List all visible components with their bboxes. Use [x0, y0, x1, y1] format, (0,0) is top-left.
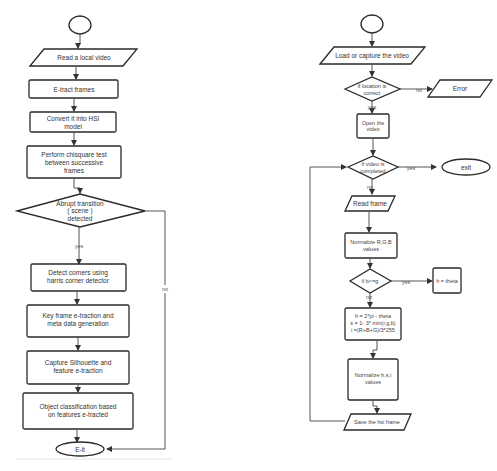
- right-decision-location: if location is correct: [345, 77, 400, 101]
- svg-text:between successive: between successive: [45, 159, 104, 166]
- left-node-exit: E-it: [56, 442, 104, 456]
- svg-text:completed: completed: [360, 168, 385, 174]
- left-node-detect-corners: Detect corners using harris corner detec…: [31, 264, 126, 291]
- svg-text:h = 2*pi - theta: h = 2*pi - theta: [355, 313, 392, 319]
- svg-text:values: values: [363, 246, 379, 252]
- svg-text:harris corner detector: harris corner detector: [47, 277, 110, 284]
- left-flowchart: Read a local video E-tract frames Conver…: [17, 16, 172, 459]
- left-node-object-classification: Object classification based on features …: [23, 393, 133, 429]
- right-node-error: Error: [428, 80, 492, 97]
- svg-text:model: model: [64, 123, 82, 130]
- svg-text:if location is: if location is: [358, 83, 387, 89]
- svg-text:if b<=g: if b<=g: [362, 278, 379, 284]
- right-node-read-frame: Read frame: [345, 196, 395, 211]
- left-node-key-frame-extraction: Key frame e-traction and meta data gener…: [27, 305, 129, 337]
- right-node-normalize-hsi: Normalize h,s,i values: [348, 359, 398, 400]
- svg-text:Save the hsi frame: Save the hsi frame: [354, 419, 400, 425]
- left-node-capture-silhouette: Capture Silhouette and feature e-tractio…: [27, 351, 129, 384]
- svg-text:s = 1- 3* min(r,g,b): s = 1- 3* min(r,g,b): [350, 320, 396, 326]
- right-node-open-video: Open the video: [357, 114, 389, 138]
- svg-text:Normalize h,s,i: Normalize h,s,i: [355, 372, 391, 378]
- right-yes-completed-label: yes: [407, 165, 416, 171]
- svg-text:Open the: Open the: [362, 120, 385, 126]
- svg-text:correct: correct: [364, 90, 381, 96]
- svg-text:if video is: if video is: [362, 161, 385, 167]
- right-no-bcg-label: no: [366, 294, 372, 300]
- svg-text:Convert it into HSI: Convert it into HSI: [47, 115, 100, 122]
- svg-text:Read a local video: Read a local video: [57, 54, 111, 61]
- svg-text:Capture Silhouette and: Capture Silhouette and: [45, 359, 112, 367]
- left-no-label: no: [162, 286, 168, 292]
- svg-text:video: video: [366, 126, 379, 132]
- left-node-chisquare-test: Perform chisquare test between successiv…: [27, 146, 121, 178]
- right-node-save-hsi-frame: Save the hsi frame: [344, 414, 411, 430]
- svg-text:meta data generation: meta data generation: [47, 320, 109, 328]
- svg-text:feature e-traction: feature e-traction: [53, 367, 103, 374]
- left-node-extract-frames: E-tract frames: [29, 80, 118, 98]
- svg-text:h = theta: h = theta: [436, 278, 459, 284]
- svg-text:Object classification based: Object classification based: [40, 403, 117, 411]
- right-node-hsi-formula: h = 2*pi - theta s = 1- 3* min(r,g,b) i …: [345, 308, 401, 340]
- right-no-completed-label: no: [367, 184, 373, 190]
- svg-text:E-tract frames: E-tract frames: [54, 86, 96, 93]
- left-yes-label: yes: [75, 243, 84, 249]
- left-decision-abrupt-transition: Abrupt transition ( scene ) detected: [17, 194, 145, 227]
- right-yes-location-label: yes: [368, 104, 377, 110]
- svg-text:detected: detected: [68, 215, 93, 222]
- svg-text:frames: frames: [64, 167, 85, 174]
- svg-text:on features e-tracted: on features e-tracted: [48, 411, 108, 418]
- left-node-read-video: Read a local video: [30, 49, 137, 66]
- right-node-load-video: Load or capture the video: [320, 47, 425, 64]
- svg-text:Detect corners using: Detect corners using: [48, 269, 108, 277]
- svg-text:Normalize R,G,B: Normalize R,G,B: [350, 239, 392, 245]
- right-node-h-theta: h = theta: [433, 268, 461, 293]
- flowchart-canvas: Read a local video E-tract frames Conver…: [0, 0, 497, 471]
- right-yes-bcg-label: yes: [402, 279, 411, 285]
- right-start-node: [361, 15, 383, 33]
- right-node-normalize-rgb: Normalize R,G,B values: [345, 233, 397, 258]
- right-no-location-label: no: [416, 87, 422, 93]
- svg-text:exit: exit: [461, 164, 471, 171]
- svg-text:i =(R+B+G)/3*255: i =(R+B+G)/3*255: [351, 327, 395, 333]
- svg-text:Error: Error: [453, 85, 468, 92]
- svg-text:E-it: E-it: [75, 446, 85, 453]
- left-node-convert-hsi: Convert it into HSI model: [30, 112, 116, 132]
- right-flowchart: Load or capture the video if location is…: [310, 15, 492, 430]
- right-decision-video-completed: if video is completed: [348, 156, 398, 179]
- svg-text:Key frame e-traction and: Key frame e-traction and: [42, 312, 114, 320]
- svg-text:Perform chisquare test: Perform chisquare test: [41, 151, 107, 159]
- right-decision-b-le-g: if b<=g: [350, 269, 391, 293]
- svg-text:Load or capture the video: Load or capture the video: [335, 52, 409, 60]
- right-node-exit: exit: [442, 159, 490, 175]
- left-start-node: [69, 16, 91, 34]
- svg-text:values: values: [365, 379, 381, 385]
- svg-text:Read frame: Read frame: [353, 200, 387, 207]
